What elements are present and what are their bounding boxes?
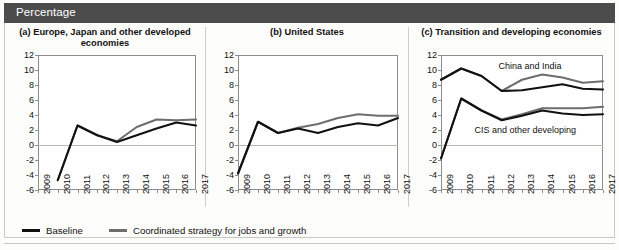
y-axis-tick bbox=[35, 100, 38, 101]
chart-figure: Percentage (a) Europe, Japan and other d… bbox=[0, 0, 619, 250]
y-axis-tick bbox=[438, 160, 441, 161]
y-axis-tick-label: 2 bbox=[416, 125, 437, 135]
x-axis-tick-label: 2010 bbox=[465, 174, 475, 194]
y-axis-tick bbox=[35, 70, 38, 71]
x-axis-tick bbox=[522, 190, 523, 193]
y-axis-tick bbox=[35, 160, 38, 161]
x-axis-tick bbox=[78, 190, 79, 193]
header-bar: Percentage bbox=[4, 3, 615, 23]
y-axis-tick bbox=[35, 175, 38, 176]
x-axis-tick-label: 2015 bbox=[161, 174, 171, 194]
x-axis-tick-label: 2011 bbox=[282, 175, 292, 194]
x-axis-tick bbox=[176, 190, 177, 193]
y-axis-tick bbox=[438, 130, 441, 131]
x-axis-tick bbox=[238, 190, 239, 193]
y-axis-tick-label: 4 bbox=[416, 110, 437, 120]
y-axis-tick bbox=[438, 175, 441, 176]
y-axis-tick bbox=[438, 145, 441, 146]
x-axis-tick-label: 2017 bbox=[607, 174, 617, 194]
x-axis-tick bbox=[137, 190, 138, 193]
y-axis-tick-label: -6 bbox=[13, 185, 34, 195]
bottom-rule bbox=[4, 243, 615, 244]
y-axis-tick-label: 0 bbox=[416, 140, 437, 150]
y-axis-tick bbox=[438, 70, 441, 71]
x-axis-tick bbox=[583, 190, 584, 193]
y-axis-tick bbox=[235, 85, 238, 86]
chart-annotation: CIS and other developing bbox=[474, 125, 576, 135]
y-axis-tick-label: 2 bbox=[13, 125, 34, 135]
legend-label-baseline: Baseline bbox=[46, 225, 83, 236]
y-axis-tick-label: 10 bbox=[213, 65, 234, 75]
x-axis-tick bbox=[298, 190, 299, 193]
y-axis-tick-label: -4 bbox=[213, 170, 234, 180]
panel-a-title: (a) Europe, Japan and other developed ec… bbox=[5, 27, 205, 49]
legend-swatch-coordinated bbox=[109, 229, 127, 232]
x-axis-tick bbox=[338, 190, 339, 193]
y-axis-tick-label: -4 bbox=[416, 170, 437, 180]
y-axis-tick-label: 8 bbox=[13, 80, 34, 90]
y-axis-tick-label: 12 bbox=[13, 50, 34, 60]
legend-swatch-baseline bbox=[22, 229, 40, 232]
y-axis-tick bbox=[235, 70, 238, 71]
chart-annotation: China and India bbox=[499, 61, 562, 71]
x-axis-tick-label: 2013 bbox=[526, 174, 536, 194]
x-axis-tick-label: 2014 bbox=[342, 174, 352, 194]
x-axis-tick-label: 2011 bbox=[82, 175, 92, 194]
panel-b-title: (b) United States bbox=[206, 27, 408, 38]
y-axis-tick-label: 6 bbox=[416, 95, 437, 105]
x-axis-tick bbox=[258, 190, 259, 193]
y-axis-tick bbox=[235, 115, 238, 116]
x-axis-tick-label: 2012 bbox=[101, 174, 111, 194]
y-axis-tick-label: 4 bbox=[13, 110, 34, 120]
x-axis-tick bbox=[542, 190, 543, 193]
x-axis-tick-label: 2013 bbox=[121, 174, 131, 194]
x-axis-tick bbox=[603, 190, 604, 193]
y-axis-tick-label: 6 bbox=[13, 95, 34, 105]
y-axis-tick-label: -4 bbox=[13, 170, 34, 180]
zero-line-c bbox=[441, 145, 603, 146]
x-axis-tick-label: 2012 bbox=[302, 174, 312, 194]
x-axis-tick-label: 2009 bbox=[242, 174, 252, 194]
x-axis-tick-label: 2015 bbox=[567, 174, 577, 194]
x-axis-tick bbox=[38, 190, 39, 193]
x-axis-tick bbox=[482, 190, 483, 193]
y-axis-tick bbox=[235, 175, 238, 176]
y-axis-tick bbox=[235, 130, 238, 131]
plot-area-b bbox=[238, 55, 398, 190]
zero-line-b bbox=[238, 145, 398, 146]
x-axis-tick-label: 2010 bbox=[62, 174, 72, 194]
y-axis-tick bbox=[235, 55, 238, 56]
y-axis-tick-label: -6 bbox=[416, 185, 437, 195]
y-axis-tick bbox=[35, 115, 38, 116]
panels-frame: (a) Europe, Japan and other developed ec… bbox=[4, 23, 615, 238]
x-axis-tick-label: 2015 bbox=[362, 174, 372, 194]
y-axis-tick-label: 8 bbox=[213, 80, 234, 90]
y-axis-tick bbox=[235, 145, 238, 146]
y-axis-tick bbox=[35, 145, 38, 146]
y-axis-tick-label: 10 bbox=[13, 65, 34, 75]
x-axis-tick-label: 2009 bbox=[42, 174, 52, 194]
zero-line-a bbox=[38, 145, 196, 146]
x-axis-tick-label: 2012 bbox=[506, 174, 516, 194]
y-axis-tick-label: 0 bbox=[213, 140, 234, 150]
y-axis-tick bbox=[235, 100, 238, 101]
panel-c: (c) Transition and developing economies … bbox=[409, 23, 614, 212]
x-axis-tick bbox=[461, 190, 462, 193]
x-axis-tick bbox=[117, 190, 118, 193]
x-axis-tick-label: 2009 bbox=[445, 174, 455, 194]
x-axis-tick bbox=[398, 190, 399, 193]
y-axis-tick-label: -2 bbox=[213, 155, 234, 165]
x-axis-tick bbox=[97, 190, 98, 193]
plot-area-a bbox=[38, 55, 196, 190]
y-axis-tick bbox=[438, 85, 441, 86]
y-axis-tick bbox=[235, 160, 238, 161]
x-axis-tick-label: 2010 bbox=[262, 174, 272, 194]
x-axis-tick bbox=[58, 190, 59, 193]
x-axis-tick bbox=[278, 190, 279, 193]
y-axis-tick-label: 12 bbox=[213, 50, 234, 60]
x-axis-tick bbox=[318, 190, 319, 193]
x-axis-tick bbox=[563, 190, 564, 193]
x-axis-tick bbox=[441, 190, 442, 193]
y-axis-tick bbox=[438, 100, 441, 101]
x-axis-tick bbox=[358, 190, 359, 193]
